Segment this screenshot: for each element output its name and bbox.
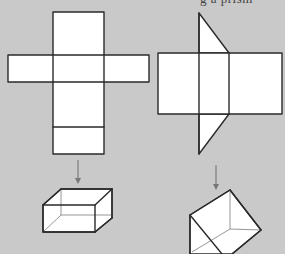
triangular-prism-solid bbox=[190, 190, 261, 254]
net-rectangles bbox=[158, 53, 282, 114]
nets-diagram bbox=[0, 0, 285, 254]
net-bottom-triangle bbox=[199, 114, 229, 154]
cuboid-solid bbox=[43, 189, 112, 232]
down-arrow-icon bbox=[213, 165, 219, 190]
down-arrow-icon bbox=[75, 160, 81, 184]
prism-net bbox=[158, 13, 282, 154]
net-column bbox=[53, 12, 104, 154]
net-row bbox=[8, 55, 149, 82]
net-top-triangle bbox=[199, 13, 229, 53]
cuboid-net bbox=[8, 12, 149, 154]
